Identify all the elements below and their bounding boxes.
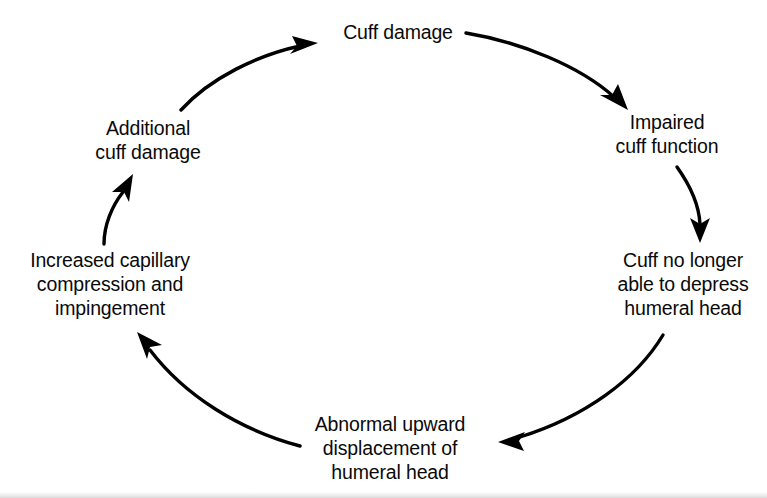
node-increased-capillary-compression-line-3: impingement bbox=[30, 296, 190, 320]
node-cuff-no-longer-able: Cuff no longer able to depress humeral h… bbox=[617, 248, 748, 320]
node-cuff-no-longer-able-line-2: able to depress bbox=[617, 272, 748, 296]
node-additional-cuff-damage-line-1: Additional bbox=[95, 116, 200, 140]
node-cuff-no-longer-able-line-3: humeral head bbox=[617, 296, 748, 320]
node-impaired-cuff-function-line-1: Impaired bbox=[616, 110, 719, 134]
node-abnormal-upward-displacement-line-1: Abnormal upward bbox=[315, 412, 466, 436]
arrow-cuff-no-longer-to-abnormal bbox=[498, 335, 663, 451]
node-impaired-cuff-function-line-2: cuff function bbox=[616, 134, 719, 158]
node-cuff-no-longer-able-line-1: Cuff no longer bbox=[617, 248, 748, 272]
arrow-abnormal-to-increased-capillary bbox=[137, 332, 300, 446]
node-increased-capillary-compression-line-2: compression and bbox=[30, 272, 190, 296]
node-increased-capillary-compression: Increased capillary compression and impi… bbox=[30, 248, 190, 320]
node-additional-cuff-damage-line-2: cuff damage bbox=[95, 140, 200, 164]
arrow-additional-to-cuff-damage bbox=[181, 36, 318, 110]
node-increased-capillary-compression-line-1: Increased capillary bbox=[30, 248, 190, 272]
node-cuff-damage: Cuff damage bbox=[343, 20, 453, 44]
arrow-impaired-to-cuff-no-longer bbox=[677, 167, 710, 243]
node-abnormal-upward-displacement: Abnormal upward displacement of humeral … bbox=[315, 412, 466, 484]
node-impaired-cuff-function: Impaired cuff function bbox=[616, 110, 719, 158]
cycle-diagram: Cuff damage Impaired cuff function Cuff … bbox=[0, 0, 767, 498]
node-additional-cuff-damage: Additional cuff damage bbox=[95, 116, 200, 164]
arrow-increased-capillary-to-additional bbox=[104, 174, 133, 244]
node-abnormal-upward-displacement-line-3: humeral head bbox=[315, 460, 466, 484]
arrow-cuff-damage-to-impaired bbox=[466, 33, 628, 110]
node-abnormal-upward-displacement-line-2: displacement of bbox=[315, 436, 466, 460]
node-cuff-damage-line-1: Cuff damage bbox=[343, 20, 453, 44]
